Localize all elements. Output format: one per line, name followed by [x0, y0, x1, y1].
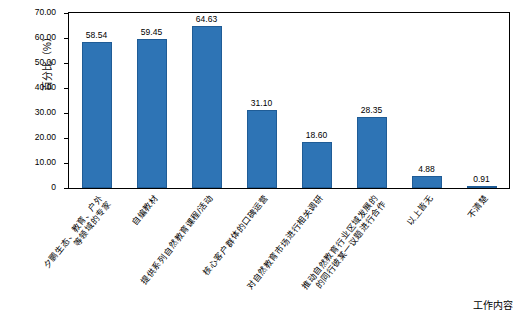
- bar-value-label: 58.54: [73, 30, 121, 40]
- bar-value-label: 59.45: [128, 27, 176, 37]
- x-axis-label: 工作内容: [473, 297, 513, 312]
- y-tick-label: 30.00: [0, 107, 62, 117]
- bar-value-label: 31.10: [238, 98, 286, 108]
- bar-value-label: 64.63: [183, 14, 231, 24]
- bar-value-label: 18.60: [293, 130, 341, 140]
- bar: [82, 42, 112, 188]
- bar: [192, 26, 222, 188]
- y-tick-label: 10.00: [0, 157, 62, 167]
- bars-layer: 58.5459.4564.6331.1018.6028.354.880.91: [69, 13, 509, 188]
- y-tick-label: 40.00: [0, 82, 62, 92]
- x-category-label: 夕鹏生态、教育、户外等领域的专家: [0, 193, 112, 327]
- y-tick-label: 60.00: [0, 32, 62, 42]
- bar: [412, 176, 442, 188]
- bar-value-label: 4.88: [403, 164, 451, 174]
- y-tick-label: 20.00: [0, 132, 62, 142]
- y-tick-label: 50.00: [0, 57, 62, 67]
- x-axis-category-labels: 夕鹏生态、教育、户外等领域的专家自编教材提供系列自然教育课程/活动核心客户群体的…: [0, 189, 527, 299]
- y-tick-label: 70.00: [0, 7, 62, 17]
- bar-value-label: 0.91: [458, 174, 506, 184]
- x-category-label-line: 夕鹏生态、教育、户外: [0, 193, 104, 327]
- bar: [467, 186, 497, 188]
- bar: [137, 39, 167, 188]
- bar-chart: 百分比（%） 010.0020.0030.0040.0050.0060.0070…: [0, 0, 527, 327]
- bar: [247, 110, 277, 188]
- bar: [357, 117, 387, 188]
- bar-value-label: 28.35: [348, 105, 396, 115]
- bar: [302, 142, 332, 189]
